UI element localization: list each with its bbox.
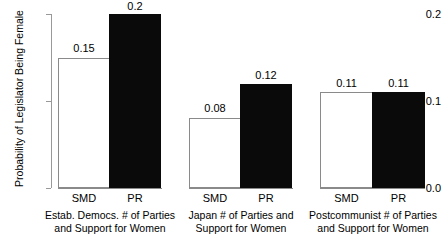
bar-value-postcommunist-smd: 0.11 — [320, 78, 373, 89]
x-tick-label-postcommunist-pr: PR — [372, 193, 425, 204]
x-tick-label-postcommunist-smd: SMD — [320, 193, 373, 204]
panel-baseline — [320, 188, 425, 189]
bar-postcommunist-smd — [320, 92, 373, 188]
panel-caption-postcommunist: Postcommunist # of Parties and Support f… — [289, 209, 446, 235]
bar-postcommunist-pr — [372, 92, 425, 188]
panel-caption-line-1: Postcommunist # of Parties — [289, 209, 446, 222]
panel-caption-line-2: and Support for Women — [289, 222, 446, 235]
bar-value-postcommunist-pr: 0.11 — [372, 78, 425, 89]
